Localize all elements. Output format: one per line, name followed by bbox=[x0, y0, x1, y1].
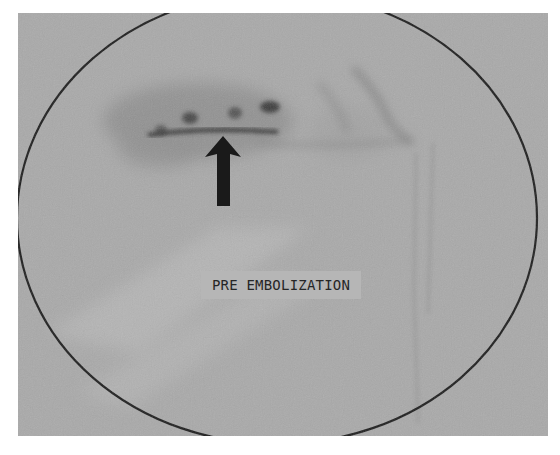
image-label: PRE EMBOLIZATION bbox=[201, 271, 361, 299]
angiogram-image: PRE EMBOLIZATION bbox=[18, 13, 548, 436]
angiogram-canvas bbox=[18, 13, 548, 436]
